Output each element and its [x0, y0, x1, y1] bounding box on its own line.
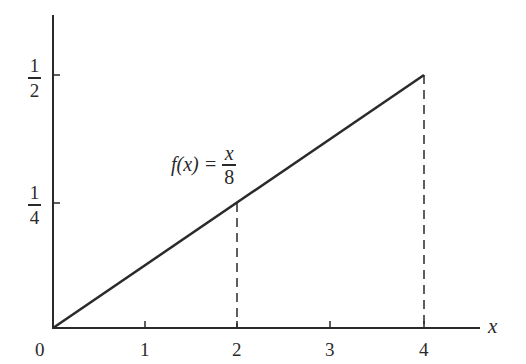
- y-tick-half-numerator: 1: [30, 56, 40, 75]
- x-tick-label-4: 4: [419, 340, 429, 359]
- fraction-bar: [28, 77, 41, 79]
- y-tick-label-half: 1 2: [28, 56, 41, 100]
- y-tick-quarter-denominator: 4: [30, 208, 40, 227]
- function-numerator: x: [225, 143, 234, 163]
- origin-label: 0: [35, 340, 45, 359]
- function-denominator: 8: [224, 167, 234, 187]
- function-fraction: x 8: [222, 143, 236, 187]
- function-line: [53, 75, 424, 328]
- x-axis-label: x: [488, 316, 497, 337]
- y-tick-quarter-numerator: 1: [30, 183, 40, 202]
- function-annotation: f(x) = x 8: [171, 143, 236, 187]
- y-tick-label-quarter: 1 4: [28, 183, 41, 227]
- x-tick-label-3: 3: [325, 340, 335, 359]
- fraction-bar: [28, 204, 41, 206]
- x-tick-label-2: 2: [232, 340, 242, 359]
- function-plot: [0, 0, 526, 364]
- y-tick-half-denominator: 2: [30, 81, 40, 100]
- x-tick-label-1: 1: [140, 340, 150, 359]
- function-lhs: f(x) =: [171, 153, 217, 176]
